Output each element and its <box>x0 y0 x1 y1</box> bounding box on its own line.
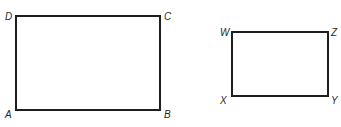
rectangle-abcd-outline <box>16 16 160 110</box>
vertex-label-a: A <box>4 109 12 120</box>
rectangle-abcd: D C A B <box>4 11 172 120</box>
vertex-label-x: X <box>219 95 227 106</box>
vertex-label-w: W <box>220 27 231 38</box>
vertex-label-z: Z <box>330 27 338 38</box>
vertex-label-d: D <box>5 11 12 22</box>
rectangle-wxyz: W Z X Y <box>219 27 339 106</box>
vertex-label-c: C <box>164 11 172 22</box>
rectangles-diagram: D C A B W Z X Y <box>0 0 341 127</box>
rectangle-wxyz-outline <box>232 32 328 96</box>
vertex-label-b: B <box>164 109 171 120</box>
vertex-label-y: Y <box>331 95 339 106</box>
